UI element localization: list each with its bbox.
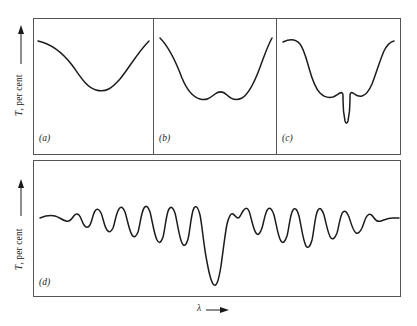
x-axis-label-text: λ [197, 303, 201, 313]
panel-tag-d: (d) [39, 277, 50, 287]
panel-tag-a: (a) [39, 133, 50, 143]
panel-tag-c: (c) [282, 133, 293, 143]
figure-root: T, per cent T, per cent (a) (b) (c) (d) … [0, 0, 417, 326]
curve-panel-a [38, 41, 149, 91]
x-axis-label: λ [197, 303, 201, 313]
curve-panel-b [160, 38, 272, 100]
panel-frame-bottom-row [34, 161, 401, 297]
curve-panel-c [283, 40, 394, 124]
curve-panel-d [40, 206, 399, 285]
panel-tag-b: (b) [159, 133, 170, 143]
spectra-plot [0, 0, 417, 326]
